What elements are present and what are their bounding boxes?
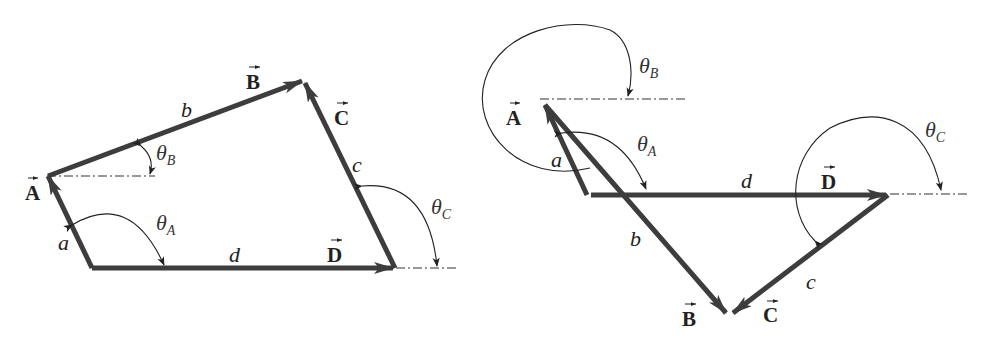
svg-text:C: C [334, 106, 349, 130]
svg-text:C: C [763, 303, 778, 327]
label-vector-c: C [763, 301, 778, 327]
label-magnitude-b: b [181, 97, 192, 122]
label-vector-b: B [246, 67, 260, 94]
label-magnitude-c: c [806, 269, 816, 294]
label-magnitude-a: a [58, 230, 69, 255]
svg-text:B: B [246, 70, 260, 94]
label-vector-a: A [25, 178, 41, 205]
label-theta-c: θC [431, 194, 452, 222]
label-magnitude-d: d [229, 242, 241, 267]
label-magnitude-c: c [352, 152, 362, 177]
label-theta-a: θA [637, 131, 657, 159]
label-theta-b: θB [639, 53, 659, 81]
svg-text:A: A [25, 181, 41, 205]
label-vector-b: B [682, 304, 696, 331]
svg-text:B: B [682, 307, 696, 331]
label-theta-a: θA [156, 210, 176, 238]
right-figure: A B C D a b c d θA θB θC [482, 24, 968, 331]
vector-c [305, 83, 395, 268]
label-magnitude-d: d [741, 168, 753, 193]
label-vector-a: A [506, 103, 522, 130]
label-magnitude-a: a [551, 147, 562, 172]
svg-text:D: D [327, 243, 342, 267]
vector-b [545, 105, 726, 313]
label-vector-d: D [821, 167, 836, 194]
vector-loop-diagram: A B C D a b c d θA θB θC [0, 0, 985, 349]
label-magnitude-b: b [630, 226, 641, 251]
svg-text:D: D [821, 170, 836, 194]
label-theta-b: θB [156, 140, 176, 168]
vector-a [48, 176, 92, 268]
theta-b-arc [141, 146, 151, 174]
vector-c [733, 195, 888, 313]
svg-text:A: A [506, 106, 522, 130]
label-vector-c: C [334, 103, 349, 130]
label-theta-c: θC [925, 117, 946, 145]
theta-c-arc [796, 117, 941, 241]
label-vector-d: D [327, 240, 342, 267]
left-figure: A B C D a b c d θA θB θC [25, 67, 458, 268]
